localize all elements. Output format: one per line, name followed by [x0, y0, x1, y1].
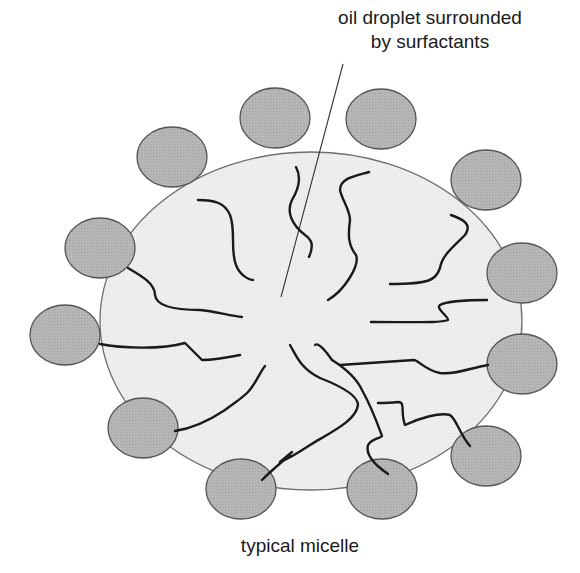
surfactant-head	[137, 127, 207, 187]
callout-line-2: by surfactants	[300, 30, 560, 54]
callout-line-1: oil droplet surrounded	[300, 6, 560, 30]
micelle-diagram: oil droplet surrounded by surfactants ty…	[0, 0, 580, 573]
surfactant-head	[240, 88, 310, 148]
surfactant-head	[108, 398, 178, 458]
surfactant-head	[487, 334, 557, 394]
micelle-figure	[0, 0, 580, 573]
surfactant-head	[347, 459, 417, 519]
surfactant-head	[65, 218, 135, 278]
caption: typical micelle	[200, 534, 400, 558]
surfactant-head	[346, 89, 416, 149]
surfactant-head	[206, 459, 276, 519]
surfactant-head	[30, 305, 100, 365]
surfactant-head	[451, 150, 521, 210]
surfactant-head	[487, 243, 557, 303]
callout-label: oil droplet surrounded by surfactants	[300, 6, 560, 54]
